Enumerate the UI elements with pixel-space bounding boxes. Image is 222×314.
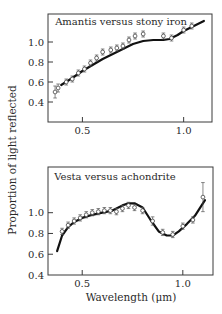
- data-point: [161, 231, 165, 235]
- panel-amantis: Amantis versus stony iron 0.51.00.40.60.…: [28, 14, 212, 136]
- data-point: [95, 56, 99, 60]
- data-point: [64, 80, 68, 84]
- x-tick-label: 1.0: [176, 125, 192, 136]
- data-point: [102, 209, 106, 213]
- data-point: [84, 213, 88, 217]
- y-tick-label: 0.6: [28, 77, 44, 88]
- data-point: [115, 46, 119, 50]
- y-tick-label: 0.8: [28, 228, 44, 239]
- data-point: [108, 209, 112, 213]
- data-point: [141, 209, 145, 213]
- panel-title-top: Amantis versus stony iron: [54, 16, 187, 27]
- data-point: [96, 210, 100, 214]
- x-tick-label: 0.5: [74, 125, 90, 136]
- data-point: [127, 38, 131, 42]
- x-tick-label: 0.5: [74, 278, 90, 289]
- data-point: [151, 219, 155, 223]
- data-point: [170, 36, 174, 40]
- data-point: [121, 207, 125, 211]
- y-tick-label: 0.4: [28, 270, 44, 281]
- data-point: [181, 224, 185, 228]
- panel-vesta: Vesta versus achondrite 0.51.00.40.60.81…: [28, 167, 213, 303]
- data-point: [133, 206, 137, 210]
- data-series-top: [53, 21, 204, 98]
- axis-ticks-bottom: 0.51.00.40.60.81.0: [28, 207, 191, 289]
- data-point: [89, 61, 93, 65]
- data-point: [115, 210, 119, 214]
- data-point: [66, 223, 70, 227]
- y-tick-label: 1.0: [28, 37, 44, 48]
- data-point: [190, 24, 194, 28]
- data-point: [78, 216, 82, 220]
- x-tick-label: 1.0: [175, 278, 191, 289]
- data-point: [60, 229, 64, 233]
- y-tick-label: 0.8: [28, 57, 44, 68]
- panel-title-bottom: Vesta versus achondrite: [53, 171, 176, 182]
- data-series-bottom: [57, 183, 205, 252]
- data-point: [201, 195, 205, 199]
- data-point: [162, 34, 166, 38]
- data-point: [171, 233, 175, 237]
- y-tick-label: 1.0: [28, 207, 44, 218]
- y-tick-label: 0.4: [28, 97, 44, 108]
- x-axis-label: Wavelength (μm): [86, 291, 177, 303]
- data-point: [127, 204, 131, 208]
- data-point: [191, 218, 195, 222]
- reflectance-chart: Proportion of light reflected Amantis ve…: [0, 0, 222, 314]
- data-point: [121, 44, 125, 48]
- data-point: [133, 34, 137, 38]
- data-point: [70, 77, 74, 81]
- data-point: [56, 86, 60, 90]
- data-point: [182, 28, 186, 32]
- data-point: [101, 50, 105, 54]
- data-point: [83, 67, 87, 71]
- data-point: [90, 211, 94, 215]
- y-axis-label: Proportion of light reflected: [6, 85, 18, 235]
- data-point: [141, 32, 145, 36]
- y-tick-label: 0.6: [28, 249, 44, 260]
- data-point: [72, 219, 76, 223]
- data-point: [109, 48, 113, 52]
- data-point: [76, 71, 80, 75]
